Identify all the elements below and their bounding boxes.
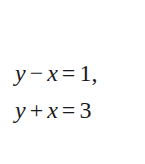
equals-sign: = xyxy=(58,97,80,123)
variable-x: x xyxy=(47,97,58,123)
minus-operator: − xyxy=(26,60,48,86)
constant: 3 xyxy=(79,97,91,123)
variable-x: x xyxy=(47,60,58,86)
equals-sign: = xyxy=(58,60,80,86)
equation-1: y−x=1, xyxy=(15,61,97,85)
variable-y: y xyxy=(15,97,26,123)
variable-y: y xyxy=(15,60,26,86)
constant: 1, xyxy=(79,60,97,86)
equation-2: y+x=3 xyxy=(15,98,91,122)
plus-operator: + xyxy=(26,97,48,123)
